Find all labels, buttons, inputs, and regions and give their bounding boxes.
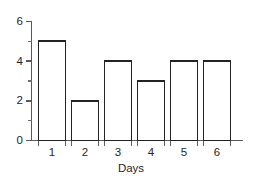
- x-axis-title: Days: [118, 162, 144, 174]
- bar-series: [39, 41, 231, 140]
- bar-day-5: [171, 61, 198, 140]
- bar-day-4: [138, 81, 165, 141]
- x-tick-label-2: 2: [82, 146, 88, 158]
- bar-day-2: [72, 101, 99, 141]
- x-tick-label-1: 1: [49, 146, 55, 158]
- bar-day-1: [39, 41, 66, 140]
- x-tick-label-6: 6: [214, 146, 220, 158]
- chart-canvas: 0 2 4 6: [0, 0, 261, 184]
- bar-day-6: [204, 61, 231, 140]
- y-tick-label-6: 6: [17, 15, 23, 27]
- x-tick-label-5: 5: [181, 146, 187, 158]
- y-tick-label-0: 0: [17, 134, 23, 146]
- x-axis-edge-ticks: [39, 141, 231, 147]
- y-tick-label-2: 2: [17, 94, 23, 106]
- bar-day-3: [105, 61, 132, 140]
- x-tick-label-4: 4: [148, 146, 155, 158]
- x-tick-label-3: 3: [115, 146, 121, 158]
- bar-chart-figure: 0 2 4 6: [0, 0, 261, 184]
- y-tick-label-4: 4: [17, 55, 24, 67]
